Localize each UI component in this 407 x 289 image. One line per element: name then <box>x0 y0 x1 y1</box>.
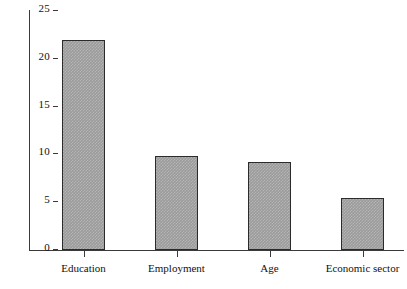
x-tick-mark <box>177 251 178 257</box>
figure-caption <box>6 282 346 289</box>
x-axis-spine <box>29 250 404 251</box>
bar-employment <box>155 156 198 250</box>
x-label-economic-sector: Economic sector <box>303 262 407 275</box>
bar-education <box>62 40 105 250</box>
bar-chart: 0510152025 EducationEmploymentAgeEconomi… <box>0 0 407 289</box>
y-tick-mark <box>53 58 58 59</box>
y-tick-mark <box>53 153 58 154</box>
y-tick-label: 10 <box>39 146 50 157</box>
x-tick-mark <box>84 251 85 257</box>
y-tick-label: 0 <box>44 242 50 253</box>
y-tick-mark <box>53 249 58 250</box>
y-tick-label: 5 <box>44 194 50 205</box>
y-tick-mark <box>53 106 58 107</box>
plot-area: 0510152025 <box>29 11 403 250</box>
y-tick-label: 20 <box>39 51 50 62</box>
x-tick-mark <box>270 251 271 257</box>
y-tick-mark <box>53 201 58 202</box>
x-tick-mark <box>363 251 364 257</box>
y-tick-label: 15 <box>39 99 50 110</box>
y-tick-mark <box>53 10 58 11</box>
bar-age <box>248 162 291 250</box>
y-tick-label: 25 <box>39 3 50 14</box>
bar-economic-sector <box>341 198 384 250</box>
